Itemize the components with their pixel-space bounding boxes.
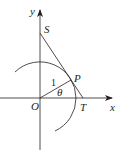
x-axis-label: x bbox=[109, 101, 115, 113]
angle-label: θ bbox=[57, 86, 63, 98]
unit-circle-diagram: y x O S P T 1 θ bbox=[0, 0, 122, 159]
y-axis-label: y bbox=[29, 5, 35, 17]
radius-label: 1 bbox=[51, 77, 56, 88]
point-S-label: S bbox=[44, 23, 50, 35]
point-T-label: T bbox=[80, 101, 87, 113]
unit-circle-arc bbox=[15, 62, 76, 131]
origin-label: O bbox=[31, 100, 39, 112]
point-P-label: P bbox=[73, 72, 81, 84]
